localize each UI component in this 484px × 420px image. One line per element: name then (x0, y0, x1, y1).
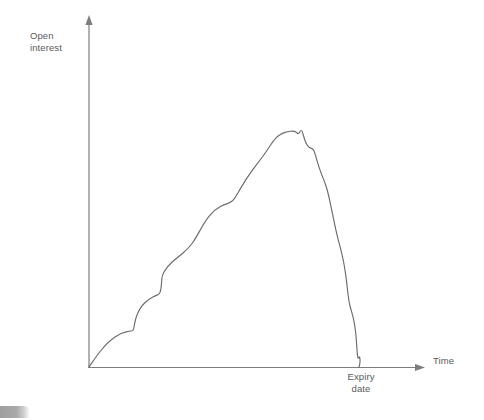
y-axis-arrowhead (85, 15, 92, 25)
x-axis-label: Time (433, 355, 454, 367)
y-axis-label: Open interest (30, 30, 62, 54)
page-corner-artifact (0, 406, 30, 418)
x-axis-arrowhead (415, 364, 425, 371)
open-interest-curve (89, 130, 360, 367)
expiry-date-label: Expiry date (334, 371, 388, 395)
open-interest-chart-figure: Open interest Time Expiry date (0, 0, 484, 420)
chart-canvas (0, 0, 484, 420)
